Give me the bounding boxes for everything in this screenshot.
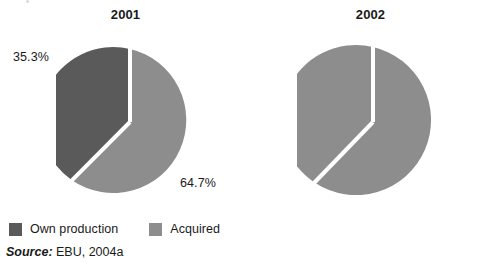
chart-title-2001: 2001: [2, 7, 249, 22]
legend-swatch-own-production: [9, 223, 22, 236]
chart-panel-2001: 2001 35.3% 64.7% Own production Acquired: [0, 0, 247, 268]
pie-label-own-production-2001: 35.3%: [13, 50, 49, 64]
chart-title-2002: 2002: [247, 7, 494, 22]
chart-panel-2002: 2002 Own production Acquired: [247, 0, 494, 268]
source-label: Source:: [6, 245, 53, 259]
pie-label-acquired-2001: 64.7%: [180, 176, 216, 190]
legend-item-own-production: Own production: [9, 222, 118, 236]
legend-2001: Own production Acquired: [9, 220, 220, 238]
legend-swatch-acquired: [149, 223, 162, 236]
legend-item-acquired: Acquired: [149, 222, 220, 236]
pie-chart-2002: [297, 44, 449, 207]
legend-label-own-production: Own production: [30, 222, 118, 236]
source-reference: EBU, 2004a: [53, 245, 124, 259]
source-note: Source: EBU, 2004a: [6, 245, 123, 259]
legend-label-acquired: Acquired: [170, 222, 220, 236]
